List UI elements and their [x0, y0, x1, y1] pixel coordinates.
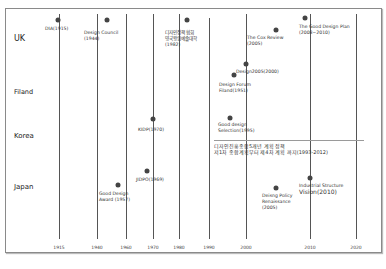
event-dot-dia: [56, 18, 61, 23]
event-label-jidpo: JIDPO(1969): [136, 177, 164, 183]
year-label-1940: 1940: [91, 245, 102, 250]
year-label-1915: 1915: [53, 245, 64, 250]
event-dot-forum: [232, 73, 237, 78]
event-label-industrial: Industrial Structure Vision(2010): [299, 183, 343, 195]
event-label-kr-uk: 디자인정책 협회 영국왕립예술대학 (1982): [165, 30, 197, 48]
event-label-kidp: KIDP(1970): [138, 127, 164, 133]
timeline-line-1960: [126, 14, 127, 239]
year-label-2000: 2000: [240, 245, 251, 250]
event-dot-design-council: [105, 18, 110, 23]
year-label-2010: 2010: [304, 245, 315, 250]
country-label-korea: Korea: [14, 132, 34, 140]
timeline-line-2020: [356, 14, 357, 239]
timeline-line-1940: [97, 14, 98, 239]
event-label-design-council: Design Council (1944): [84, 30, 118, 42]
timeline-line-2010: [310, 14, 311, 239]
event-dot-cox: [274, 28, 279, 33]
event-dot-jidpo: [145, 169, 150, 174]
event-label-dia: DIA(1915): [45, 26, 68, 32]
event-label-kr-plan: 디자인진흥종합5개년 계획 정책 저1차 종합계획부터 제4차 계획 까지(19…: [214, 143, 328, 155]
year-label-1960: 1960: [120, 245, 131, 250]
event-dot-good-plan: [303, 16, 308, 21]
timeline-line-1990: [209, 18, 210, 239]
year-label-2020: 2020: [350, 245, 361, 250]
year-label-1980: 1980: [173, 245, 184, 250]
event-dot-kr-uk: [185, 18, 190, 23]
event-dot-design2005: [244, 62, 249, 67]
event-label-cox: The Cox Review (2005): [247, 35, 283, 47]
event-label-good-selection: Good design Selection(1995): [218, 122, 254, 134]
event-dot-good-selection: [228, 116, 233, 121]
event-label-good-award: Good Design Award (1957): [99, 191, 130, 203]
event-label-design2005: Design2005(2000): [236, 69, 279, 75]
event-dot-kidp: [151, 117, 156, 122]
event-label-good-plan: The Good Design Plan (2008~2010): [299, 24, 350, 36]
event-label-forum: Design Forum Filand(1951): [219, 82, 251, 94]
korea-separator: [214, 140, 364, 141]
year-label-1990: 1990: [203, 245, 214, 250]
event-dot-industrial: [308, 176, 313, 181]
event-dot-renaissance: [274, 186, 279, 191]
event-dot-good-award: [116, 183, 121, 188]
country-label-uk: UK: [14, 34, 25, 43]
country-label-japan: Japan: [14, 183, 34, 191]
event-label-renaissance: Deisng Policy Renaissance (2005): [262, 193, 293, 211]
timeline-line-1915: [59, 14, 60, 239]
year-label-1970: 1970: [147, 245, 158, 250]
country-label-filand: Filand: [14, 88, 33, 96]
